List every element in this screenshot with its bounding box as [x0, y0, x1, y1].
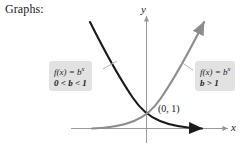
annotation-decay: f(x) = bx 0 < b < 1	[49, 61, 92, 91]
y-axis-label: y	[141, 3, 146, 15]
annotation-growth-condition: b > 1	[200, 78, 230, 89]
x-axis-label: x	[231, 121, 236, 133]
growth-curve	[92, 22, 204, 129]
annotation-decay-function: f(x) = bx	[54, 64, 87, 78]
right-leader-line	[181, 62, 193, 70]
figure-container: Graphs: f(x) = bx 0 < b < 1	[0, 0, 251, 154]
y-intercept-label: (0, 1)	[158, 103, 180, 114]
annotation-growth: f(x) = bx b > 1	[195, 61, 235, 91]
annotation-decay-condition: 0 < b < 1	[54, 78, 87, 89]
annotation-growth-function: f(x) = bx	[200, 64, 230, 78]
